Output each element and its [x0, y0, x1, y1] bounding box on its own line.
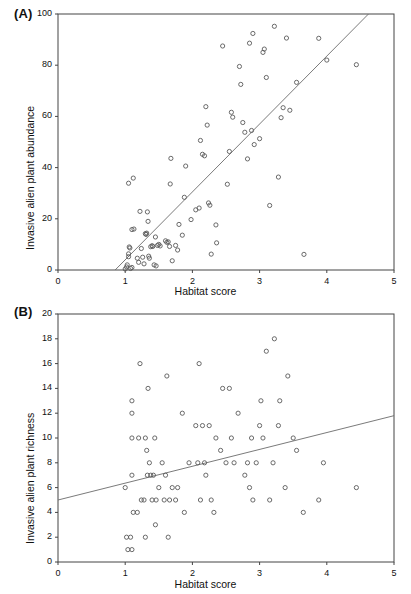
tick-label-y: 10 [24, 432, 52, 442]
panel-a-y-axis-title: Invasive alien plant abundance [24, 106, 36, 250]
tick-label-y: 20 [24, 213, 52, 223]
tick-label-x: 3 [245, 568, 275, 578]
tick-label-y: 0 [24, 556, 52, 566]
tick-label-x: 4 [312, 276, 342, 286]
tick-label-y: 60 [24, 110, 52, 120]
tick-label-y: 16 [24, 358, 52, 368]
tick-label-x: 2 [177, 568, 207, 578]
tick-label-y: 20 [24, 308, 52, 318]
tick-label-y: 14 [24, 382, 52, 392]
tick-label-x: 5 [379, 276, 409, 286]
tick-label-x: 2 [177, 276, 207, 286]
panel-a: (A) Invasive alien plant abundance Habit… [0, 0, 411, 300]
tick-label-y: 6 [24, 482, 52, 492]
panel-a-plot [0, 0, 411, 300]
tick-label-x: 4 [312, 568, 342, 578]
tick-label-x: 0 [43, 568, 73, 578]
panel-b: (B) Invasive alien plant richness Habita… [0, 296, 411, 594]
tick-label-y: 12 [24, 407, 52, 417]
tick-label-x: 5 [379, 568, 409, 578]
tick-label-y: 4 [24, 506, 52, 516]
tick-label-y: 18 [24, 333, 52, 343]
tick-label-y: 100 [24, 8, 52, 18]
tick-label-x: 1 [110, 276, 140, 286]
tick-label-y: 2 [24, 531, 52, 541]
panel-b-plot [0, 296, 411, 594]
tick-label-y: 80 [24, 59, 52, 69]
tick-label-x: 0 [43, 276, 73, 286]
tick-label-x: 1 [110, 568, 140, 578]
tick-label-y: 8 [24, 457, 52, 467]
tick-label-y: 40 [24, 162, 52, 172]
tick-label-x: 3 [245, 276, 275, 286]
tick-label-y: 0 [24, 264, 52, 274]
figure-container: (A) Invasive alien plant abundance Habit… [0, 0, 411, 594]
panel-b-x-axis-title: Habitat score [0, 578, 411, 590]
